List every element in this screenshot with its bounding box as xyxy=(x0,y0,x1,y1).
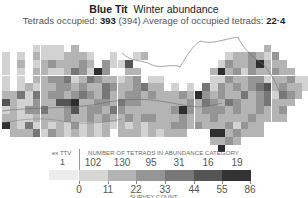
count-2: 130 xyxy=(108,157,136,168)
scale-swatch xyxy=(222,170,251,181)
abundance-map xyxy=(2,37,302,149)
axis-label: SURVEY COUNT xyxy=(130,194,177,198)
average-label: Average of occupied tetrads: xyxy=(143,15,264,26)
species-name: Blue Tit xyxy=(89,3,127,15)
category-label: NUMBER OF TETRADS IN ABUNDANCE CATEGORY xyxy=(88,150,239,156)
scale-swatch xyxy=(136,170,165,181)
tetrad-cell xyxy=(302,83,308,91)
extra-label: ex TTV xyxy=(52,150,71,156)
scale-swatch xyxy=(79,170,108,181)
average-value: 22·4 xyxy=(266,15,285,26)
map-subtitle: Tetrads occupied: 393 (394) Average of o… xyxy=(0,15,308,27)
season-label: Winter abundance xyxy=(133,3,218,15)
river-lines xyxy=(2,37,302,149)
color-scale xyxy=(79,170,251,181)
count-1: 102 xyxy=(79,157,107,168)
count-4: 31 xyxy=(165,157,193,168)
count-5: 16 xyxy=(194,157,222,168)
scale-swatch xyxy=(194,170,223,181)
scale-swatch xyxy=(165,170,194,181)
tick-label: 11 xyxy=(98,184,118,195)
occupied-value: 393 xyxy=(100,15,116,26)
tick-label: 44 xyxy=(184,184,204,195)
extra-value: 1 xyxy=(60,157,65,167)
tick-label: 86 xyxy=(240,184,260,195)
tetrad-cell xyxy=(302,76,308,84)
scale-swatch xyxy=(108,170,137,181)
map-title: Blue Tit Winter abundance xyxy=(0,3,308,15)
tick-label: 0 xyxy=(69,184,89,195)
legend: ex TTV 1 NUMBER OF TETRADS IN ABUNDANCE … xyxy=(0,148,308,198)
extra-swatch xyxy=(49,170,78,180)
tick-label: 55 xyxy=(212,184,232,195)
occupied-label: Tetrads occupied: xyxy=(23,15,97,26)
occupied-alt: (394) xyxy=(118,15,140,26)
count-3: 95 xyxy=(137,157,165,168)
count-6: 19 xyxy=(223,157,251,168)
